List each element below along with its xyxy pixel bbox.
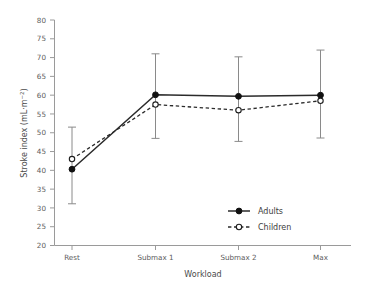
y-tick-label: 30: [37, 204, 47, 213]
legend-marker-children: [236, 224, 241, 229]
data-point-adults: [236, 93, 242, 99]
x-tick-label: Max: [313, 253, 329, 262]
y-axis-title-superscript: −2: [19, 92, 25, 100]
series-markers-group: [69, 92, 323, 172]
chart-legend: AdultsChildren: [228, 207, 291, 232]
data-point-children: [236, 108, 241, 113]
data-point-children: [153, 102, 158, 107]
y-tick-label: 50: [37, 128, 47, 137]
legend-label-children: Children: [258, 223, 291, 232]
chart-canvas: 20253035404550556065707580 RestSubmax 1S…: [0, 0, 366, 285]
error-bars-group: [68, 50, 325, 204]
y-tick-label: 70: [37, 53, 47, 62]
x-tick-label: Submax 1: [137, 253, 173, 262]
legend-label-adults: Adults: [258, 207, 283, 216]
y-tick-label: 25: [37, 222, 46, 231]
chart-figure: 20253035404550556065707580 RestSubmax 1S…: [0, 0, 366, 285]
x-axis-ticks: RestSubmax 1Submax 2Max: [64, 246, 329, 263]
x-tick-label: Rest: [64, 253, 80, 262]
y-axis-ticks: 20253035404550556065707580: [37, 16, 55, 251]
y-axis-title-main: Stroke index (mL·m: [20, 99, 29, 177]
y-tick-label: 20: [37, 241, 47, 250]
data-point-adults: [318, 92, 324, 98]
x-axis-title: Workload: [184, 270, 221, 279]
data-point-adults: [153, 92, 159, 98]
data-point-children: [69, 156, 74, 161]
series-lines-group: [72, 95, 321, 169]
y-tick-label: 75: [37, 34, 46, 43]
y-tick-label: 60: [37, 91, 47, 100]
x-tick-label: Submax 2: [220, 253, 256, 262]
y-tick-label: 65: [37, 72, 46, 81]
data-point-children: [318, 98, 323, 103]
y-tick-label: 45: [37, 147, 46, 156]
data-point-adults: [69, 166, 75, 172]
y-tick-label: 35: [37, 185, 46, 194]
legend-marker-adults: [236, 208, 242, 214]
y-tick-label: 80: [37, 16, 47, 25]
series-line-adults: [72, 95, 321, 169]
y-axis-title-tail: ): [20, 88, 29, 91]
y-tick-label: 40: [37, 166, 47, 175]
series-line-children: [72, 101, 321, 159]
y-tick-label: 55: [37, 110, 46, 119]
y-axis-title: Stroke index (mL·m−2): [19, 88, 29, 177]
